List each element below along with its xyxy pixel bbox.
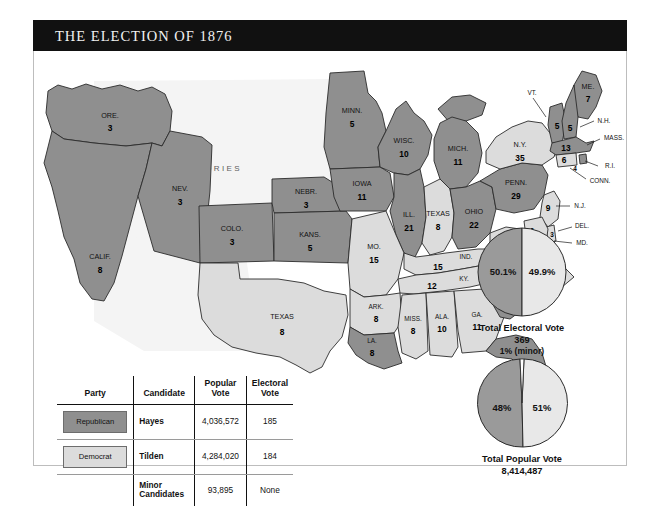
state-label-iowa: IOWA [353, 179, 372, 188]
cell-candidate-tilden: Tilden [134, 439, 195, 474]
state-value-calif: 8 [98, 265, 103, 275]
electoral-total: 369 [432, 334, 612, 346]
popular-caption: Total Popular Vote 8,414,487 [432, 453, 612, 477]
state-ark[interactable] [350, 289, 402, 335]
state-value-texas: 8 [280, 327, 285, 337]
page-title: THE ELECTION OF 1876 [55, 28, 232, 45]
popular-caption-title: Total Popular Vote [482, 454, 562, 464]
state-label-minn: MINN. [342, 106, 362, 115]
cell-popular-minor: 93,895 [194, 474, 246, 506]
state-value-mich: 11 [454, 157, 463, 167]
state-conn[interactable] [556, 153, 577, 167]
state-mich[interactable] [438, 95, 486, 123]
state-value-colo: 3 [230, 237, 235, 247]
th-popular-vote: Popular Vote [194, 376, 246, 404]
state-label-ohio: OHIO [465, 207, 484, 216]
state-label-nh: N.H. [598, 117, 611, 124]
cell-candidate-hayes: Hayes [134, 404, 195, 439]
pie-label-republican-electoral: 50.1% [490, 266, 517, 277]
electoral-vote-chart: 50.1% 49.9% Total Electoral Vote 369 [432, 226, 612, 346]
popular-vote-chart: 1% (minor) 48% 51% Total Popular Vote 8,… [432, 346, 612, 477]
state-label-ill: ILL. [403, 210, 415, 219]
swatch-republican: Republican [63, 411, 127, 433]
state-label-conn: CONN. [590, 177, 611, 184]
state-label-nebr: NEBR. [295, 187, 317, 196]
cell-candidate-minor: Minor Candidates [134, 474, 195, 506]
state-label-nev: NEV. [172, 184, 188, 193]
state-label-ark: ARK. [369, 303, 384, 310]
leader-conn [570, 168, 586, 179]
leader-ri [585, 161, 598, 166]
state-value-kans: 5 [308, 243, 313, 253]
state-label-la: LA. [367, 337, 377, 344]
state-value-minn: 5 [350, 119, 355, 129]
state-value-ark: 8 [374, 314, 379, 324]
state-label-mich: MICH. [448, 144, 468, 153]
state-label-mo: MO. [367, 242, 381, 251]
state-value-ny: 35 [515, 153, 525, 163]
state-label-vt: VT. [527, 89, 536, 96]
electoral-caption: Total Electoral Vote 369 [432, 322, 612, 346]
table-row: Democrat Tilden 4,284,020 184 [57, 439, 293, 474]
state-value-wisc: 10 [399, 149, 409, 159]
party-results-table: Party Candidate Popular Vote Electoral V… [57, 376, 293, 480]
state-ri[interactable] [579, 154, 587, 164]
cell-popular-hayes: 4,036,572 [194, 404, 246, 439]
pie-label-democrat-electoral: 49.9% [529, 266, 556, 277]
table-row: Republican Hayes 4,036,572 185 [57, 404, 293, 439]
state-value-mass: 13 [561, 143, 571, 153]
state-label-penn: PENN. [505, 178, 527, 187]
cell-electoral-tilden: 184 [246, 439, 293, 474]
pie-label-democrat-popular: 51% [533, 402, 552, 413]
state-label-wisc: WISC. [394, 136, 415, 145]
state-label-kans: KANS. [299, 230, 321, 239]
state-label-ore: ORE. [101, 111, 119, 120]
cell-party-democrat: Democrat [57, 439, 134, 474]
election-map-figure: THE ELECTION OF 1876 TERRITORIES ORE. 3 … [33, 20, 627, 466]
state-label-ri: R.I. [605, 162, 615, 169]
state-mich-lower[interactable] [434, 117, 482, 189]
state-value-nj: 9 [546, 203, 551, 213]
state-label-ny: N.Y. [513, 140, 526, 149]
leader-nh [580, 121, 594, 127]
state-value-nebr: 3 [304, 200, 309, 210]
state-value-ill: 21 [404, 223, 414, 233]
table-row: Minor Candidates 93,895 None [57, 474, 293, 506]
state-value-me: 7 [586, 94, 591, 104]
cell-electoral-minor: None [246, 474, 293, 506]
state-value-nh: 5 [568, 123, 573, 133]
state-value-conn: 6 [562, 155, 567, 165]
cell-party-minor [57, 474, 134, 506]
state-value-vt: 5 [555, 121, 560, 131]
cell-electoral-hayes: 185 [246, 404, 293, 439]
state-label-me: ME. [582, 82, 595, 91]
state-label-texas: TEXAS [270, 312, 294, 321]
state-label-miss: MISS. [404, 315, 422, 322]
swatch-democrat: Democrat [63, 446, 127, 468]
state-colo[interactable] [199, 203, 274, 263]
table-header-row: Party Candidate Popular Vote Electoral V… [57, 376, 293, 404]
pie-label-republican-popular: 48% [493, 402, 512, 413]
th-party: Party [57, 376, 134, 404]
leader-vt [533, 98, 546, 117]
cell-party-republican: Republican [57, 404, 134, 439]
th-electoral-vote: Electoral Vote [246, 376, 293, 404]
state-label-colo: COLO. [221, 224, 243, 233]
state-value-mo: 15 [369, 255, 379, 265]
state-label-nj: N.J. [574, 202, 586, 209]
state-minn[interactable] [324, 71, 386, 169]
state-value-miss: 8 [411, 326, 416, 336]
state-iowa[interactable] [330, 167, 394, 211]
state-value-penn: 29 [511, 191, 521, 201]
electoral-caption-title: Total Electoral Vote [480, 323, 564, 333]
state-value-la: 8 [370, 348, 375, 358]
state-value-nev: 3 [178, 197, 183, 207]
state-label-ind: TEXAS [426, 209, 450, 218]
popular-total: 8,414,487 [432, 465, 612, 477]
figure-title-bar: THE ELECTION OF 1876 [33, 20, 627, 51]
state-value-iowa: 11 [358, 192, 367, 202]
cell-popular-tilden: 4,284,020 [194, 439, 246, 474]
state-value-ore: 3 [108, 123, 113, 133]
state-label-calif: CALIF. [89, 252, 111, 261]
figure-body-panel: TERRITORIES ORE. 3 CALIF. 8 NEV. 3 COLO.… [33, 51, 627, 466]
